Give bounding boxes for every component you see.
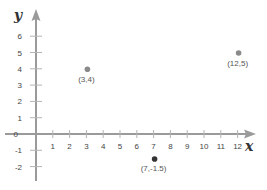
ticks: 123456789101112-2-11234560 (14, 32, 243, 171)
x-tick-label: 4 (101, 142, 106, 151)
point-marker-icon (85, 67, 91, 73)
y-tick-label: 2 (18, 97, 23, 106)
x-tick-label: 2 (67, 142, 72, 151)
y-tick-label: 6 (18, 32, 23, 41)
y-tick-label: 4 (18, 65, 23, 74)
x-tick-label: 5 (118, 142, 123, 151)
x-tick-label: 11 (217, 142, 226, 151)
y-tick-label: -1 (15, 146, 23, 155)
x-tick-label: 12 (233, 142, 242, 151)
y-axis-label: y (13, 7, 23, 23)
x-tick-label: 1 (51, 142, 56, 151)
y-tick-label: 3 (18, 81, 23, 90)
x-tick-label: 10 (200, 142, 209, 151)
data-point: (7,-1.5) (141, 156, 167, 173)
data-points: (3,4)(12,5)(7,-1.5) (78, 50, 248, 173)
axes (5, 9, 256, 181)
x-tick-label: 6 (135, 142, 140, 151)
y-tick-label: 5 (18, 49, 23, 58)
point-label: (3,4) (78, 75, 95, 84)
point-marker-icon (152, 156, 158, 162)
y-tick-label: -2 (15, 163, 23, 172)
coordinate-plane: 123456789101112-2-11234560 (3,4)(12,5)(7… (0, 0, 267, 190)
point-marker-icon (236, 50, 242, 56)
x-tick-label: 7 (151, 142, 156, 151)
x-tick-label: 3 (84, 142, 89, 151)
origin-label: 0 (14, 130, 19, 139)
y-tick-label: 1 (18, 114, 23, 123)
data-point: (3,4) (78, 67, 95, 84)
x-axis-label: x (244, 138, 254, 154)
point-label: (12,5) (227, 59, 248, 68)
point-label: (7,-1.5) (141, 164, 167, 173)
x-tick-label: 8 (168, 142, 173, 151)
data-point: (12,5) (227, 50, 248, 67)
x-tick-label: 9 (185, 142, 190, 151)
